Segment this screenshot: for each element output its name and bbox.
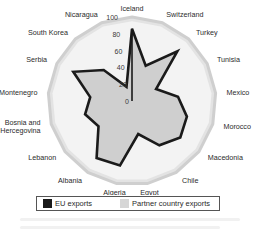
tick-label: 40 xyxy=(117,64,125,71)
legend-item-partner: Partner country exports xyxy=(120,199,210,208)
category-label: Nicaragua xyxy=(65,10,98,19)
legend-partner-label: Partner country exports xyxy=(132,199,210,208)
legend-eu-label: EU exports xyxy=(55,199,92,208)
category-label: Lebanon xyxy=(28,153,56,162)
category-label: South Korea xyxy=(28,28,68,37)
category-label: Morocco xyxy=(223,122,251,131)
category-label: Chile xyxy=(182,176,198,185)
category-label: Mexico xyxy=(227,88,250,97)
legend: EU exports Partner country exports xyxy=(36,196,220,211)
category-label: Serbia xyxy=(26,55,47,64)
tick-label: 100 xyxy=(106,14,118,21)
category-label: Albania xyxy=(58,176,82,185)
category-label: Montenegro xyxy=(0,88,37,97)
legend-item-eu: EU exports xyxy=(43,199,92,208)
tick-label: 20 xyxy=(119,81,127,88)
category-label: Egypt xyxy=(140,188,158,195)
category-label: Hercegovina xyxy=(0,126,40,135)
category-label: Turkey xyxy=(196,28,218,37)
faded-caption-line xyxy=(20,218,240,221)
radar-chart: 020406080100 IcelandSwitzerlandTurkeyTun… xyxy=(0,0,261,195)
partner-swatch-icon xyxy=(120,199,129,208)
tick-label: 0 xyxy=(125,98,129,105)
eu-swatch-icon xyxy=(43,199,52,208)
category-label: Switzerland xyxy=(166,10,203,19)
faded-caption-line xyxy=(20,226,220,229)
tick-label: 60 xyxy=(115,48,123,55)
category-label: Iceland xyxy=(120,4,143,13)
category-label: Macedonia xyxy=(208,153,243,162)
category-label: Tunisia xyxy=(217,55,240,64)
category-label: Algeria xyxy=(103,188,125,195)
tick-label: 80 xyxy=(112,31,120,38)
